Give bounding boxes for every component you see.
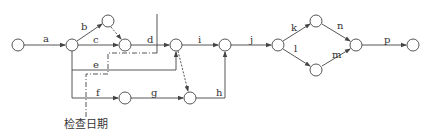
label-j: j xyxy=(249,34,253,45)
node-8 xyxy=(219,39,231,51)
label-c: c xyxy=(93,34,99,45)
label-d: d xyxy=(147,34,154,45)
node-6 xyxy=(119,92,131,104)
label-e: e xyxy=(93,59,99,70)
check-date-label: 检查日期 xyxy=(64,117,108,131)
node-10 xyxy=(310,15,322,27)
label-k: k xyxy=(291,22,298,33)
node-13 xyxy=(407,39,419,51)
node-3 xyxy=(102,15,114,27)
node-2 xyxy=(66,39,78,51)
node-7 xyxy=(184,92,196,104)
dummy-activity-arrow xyxy=(178,51,188,91)
label-b: b xyxy=(81,21,87,32)
activity-e-arrow xyxy=(72,51,176,70)
label-f: f xyxy=(96,87,101,98)
node-1 xyxy=(12,39,24,51)
label-m: m xyxy=(332,49,342,60)
node-12 xyxy=(350,39,362,51)
label-l: l xyxy=(294,43,297,54)
node-5 xyxy=(170,39,182,51)
node-4 xyxy=(119,39,131,51)
node-11 xyxy=(310,64,322,76)
network-diagram: a b c d e f g h i j k l n m p 检查日期 xyxy=(0,0,429,137)
activity-n-arrow xyxy=(322,24,350,41)
label-n: n xyxy=(337,20,344,31)
label-a: a xyxy=(43,33,49,44)
label-g: g xyxy=(151,87,158,98)
label-h: h xyxy=(216,87,223,98)
dummy-activity-arrow xyxy=(111,27,121,39)
label-i: i xyxy=(198,34,201,45)
label-p: p xyxy=(384,34,390,45)
node-9 xyxy=(272,39,284,51)
